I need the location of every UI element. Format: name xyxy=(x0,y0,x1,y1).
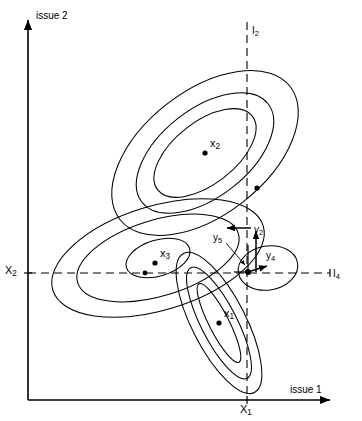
x2-tick-label: X2 xyxy=(5,264,17,278)
vector-label-y2: y2 xyxy=(254,224,263,237)
x1-tick-label: X1 xyxy=(240,403,252,417)
point-x1 xyxy=(216,320,221,325)
vector-label-y5: y5 xyxy=(213,232,222,245)
point-x3 xyxy=(152,260,157,265)
y-axis-label: issue 2 xyxy=(36,10,68,21)
ellipse-clusters xyxy=(38,38,329,405)
axes xyxy=(24,20,330,404)
point-node-x3-on-I4 xyxy=(143,271,148,276)
I4-line-label: I4 xyxy=(333,268,340,281)
x-axis-label: issue 1 xyxy=(290,384,322,395)
vector-y5-leader xyxy=(226,243,245,265)
point-label-x2: x2 xyxy=(210,137,220,151)
point-label-x3: x3 xyxy=(160,247,170,261)
diagram-svg xyxy=(0,0,362,421)
reference-lines xyxy=(28,22,330,395)
vector-label-y4: y4 xyxy=(266,250,275,263)
point-node-center xyxy=(245,269,251,275)
figure-canvas: issue 2 issue 1 X1 X2 I2 I4 x1 x2 x3 y2 … xyxy=(0,0,362,421)
point-label-x1: x1 xyxy=(224,307,234,321)
I2-line-label: I2 xyxy=(252,25,259,38)
point-node-upper xyxy=(254,185,259,190)
point-x2 xyxy=(202,150,207,155)
marker-points xyxy=(143,150,260,325)
